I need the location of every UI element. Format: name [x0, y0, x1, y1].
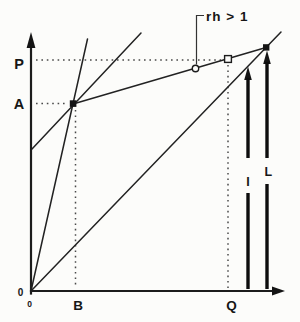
origin-zero-left-label: 0 [18, 287, 24, 298]
medium-ray [32, 33, 141, 149]
annotation-leader-line [197, 16, 205, 65]
open-circle-marker [192, 65, 198, 71]
45-degree-line [31, 32, 281, 291]
x-axis-arrowhead-icon [272, 287, 285, 296]
l-arrow-label: L [265, 165, 273, 179]
y-axis-arrowhead-icon [27, 32, 36, 48]
i-arrow-label: I [246, 175, 249, 189]
diagram: P A rh > 1 0 0 B Q I L [0, 0, 300, 322]
filled-square-marker-a [70, 100, 77, 107]
l-arrowhead-icon [263, 51, 271, 65]
filled-marker-top-right [263, 44, 269, 50]
p-axis-label: P [14, 56, 24, 72]
rh-annotation-label: rh > 1 [206, 9, 248, 24]
rh-line [73, 48, 266, 105]
steep-ray [31, 39, 88, 291]
q-axis-label: Q [226, 298, 237, 313]
b-axis-label: B [73, 298, 83, 313]
figure-canvas: P A rh > 1 0 0 B Q I L [0, 0, 300, 322]
origin-zero-below-label: 0 [27, 299, 32, 309]
a-axis-label: A [14, 96, 25, 112]
open-square-marker-q [225, 56, 232, 63]
